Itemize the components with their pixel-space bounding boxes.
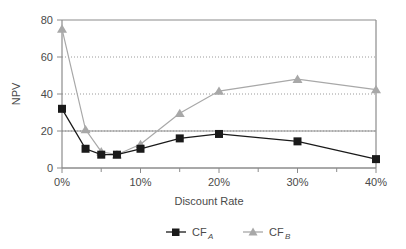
y-axis-title: NPV — [10, 82, 22, 105]
x-label-10: 10% — [129, 176, 151, 188]
legend-label-cf-b: CF — [269, 226, 284, 238]
legend-sub-cf-b: B — [285, 232, 291, 241]
x-label-30: 30% — [286, 176, 308, 188]
x-label-0: 0% — [54, 176, 70, 188]
chart-background — [0, 0, 406, 249]
data-point-square — [137, 145, 145, 153]
legend-label-cf-a: CF — [192, 226, 207, 238]
x-label-40: 40% — [365, 176, 387, 188]
data-point-square — [97, 151, 105, 159]
data-point-square — [294, 137, 302, 145]
npv-chart-figure: 80 60 40 20 0 0% 10% 20% 30% 40% Discoun… — [0, 0, 406, 249]
data-point-square — [58, 105, 66, 113]
square-marker-icon — [172, 229, 180, 237]
data-point-square — [372, 155, 380, 163]
x-label-20: 20% — [208, 176, 230, 188]
y-label-0: 0 — [47, 162, 53, 174]
legend-sub-cf-a: A — [207, 232, 213, 241]
data-point-square — [113, 151, 121, 159]
y-label-40: 40 — [41, 88, 53, 100]
data-point-square — [176, 134, 184, 142]
data-point-square — [215, 130, 223, 138]
y-label-20: 20 — [41, 125, 53, 137]
x-axis-title: Discount Rate — [174, 195, 243, 207]
chart-canvas: 80 60 40 20 0 0% 10% 20% 30% 40% Discoun… — [0, 0, 406, 249]
data-point-square — [82, 145, 90, 153]
y-label-80: 80 — [41, 14, 53, 26]
y-label-60: 60 — [41, 51, 53, 63]
